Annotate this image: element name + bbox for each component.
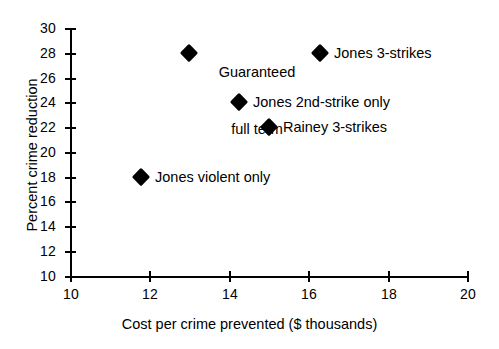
x-axis-line: [70, 276, 468, 278]
point-label-rainey-3-strikes: Rainey 3-strikes: [283, 118, 387, 137]
x-tick-label: 12: [130, 286, 170, 302]
x-tick-mark: [229, 271, 231, 282]
point-label-jones-3-strikes: Jones 3-strikes: [334, 44, 432, 63]
point-label-jones-violent-only: Jones violent only: [155, 168, 270, 187]
y-axis-title: Percent crime reduction: [24, 35, 40, 275]
y-tick-mark: [65, 152, 76, 154]
x-tick-label: 14: [210, 286, 250, 302]
y-tick-mark: [65, 102, 76, 104]
point-label-jones-2nd-strike-only: Jones 2nd-strike only: [253, 93, 390, 112]
point-label-line-1: Guaranteed: [200, 63, 314, 82]
x-tick-label: 10: [51, 286, 91, 302]
x-tick-label: 16: [289, 286, 329, 302]
y-tick-mark: [65, 226, 76, 228]
scatter-chart: 10 12 14 16 18 20 10 12 14 16 18 20 22 2…: [0, 0, 499, 349]
y-tick-mark: [65, 53, 76, 55]
y-tick-mark: [65, 78, 76, 80]
x-tick-mark: [149, 271, 151, 282]
y-tick-mark: [65, 127, 76, 129]
y-tick-mark: [65, 201, 76, 203]
y-tick-mark: [65, 251, 76, 253]
y-tick-mark: [65, 276, 76, 278]
x-tick-mark: [308, 271, 310, 282]
x-tick-label: 18: [369, 286, 409, 302]
x-tick-mark: [388, 271, 390, 282]
y-tick-label: 30: [22, 20, 56, 36]
data-point-jones-violent-only[interactable]: [132, 168, 150, 186]
data-point-guaranteed-full-term[interactable]: [180, 44, 198, 62]
x-tick-label: 20: [448, 286, 488, 302]
y-tick-mark: [65, 28, 76, 30]
y-tick-mark: [65, 177, 76, 179]
x-axis-title: Cost per crime prevented ($ thousands): [0, 316, 499, 332]
x-tick-mark: [467, 271, 469, 282]
